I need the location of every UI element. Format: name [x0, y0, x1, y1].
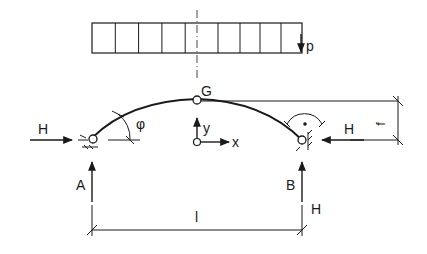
coordinate-axes-icon: [194, 118, 230, 146]
rise-label: f: [373, 122, 388, 126]
three-hinged-arch-diagram: p f G y x H A φ: [0, 0, 427, 254]
right-reaction-label: B: [286, 177, 295, 193]
crown-hinge-label: G: [201, 83, 212, 99]
y-axis-label: y: [203, 120, 210, 136]
left-hinge-support-icon: [78, 135, 98, 149]
angle-label: φ: [136, 116, 145, 132]
right-hinge-support-icon: [296, 130, 312, 151]
left-reaction-label: A: [76, 177, 86, 193]
right-lower-thrust-label: H: [311, 201, 321, 217]
load-label: p: [306, 38, 314, 54]
right-thrust-label: H: [344, 121, 354, 137]
rotation-symbol-icon: [284, 114, 325, 127]
span-label: l: [195, 209, 198, 225]
crown-hinge-icon: [193, 96, 201, 104]
x-axis-label: x: [232, 134, 239, 150]
rise-dimension: [393, 96, 403, 145]
left-thrust-label: H: [38, 121, 48, 137]
